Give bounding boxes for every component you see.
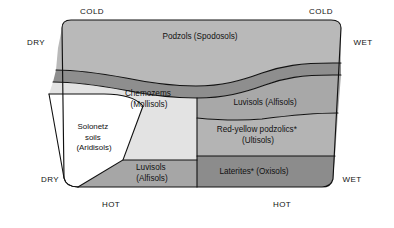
laterites-label: Laterites* (Oxisols) [219, 167, 288, 176]
axis-label-right-upper: WET [354, 38, 373, 47]
axis-label-bottom-right: HOT [273, 200, 291, 209]
axis-label-bottom-left: HOT [102, 200, 120, 209]
axis-label-top-left: COLD [80, 7, 104, 16]
axis-label-right-lower: WET [343, 175, 362, 184]
axis-label-left-upper: DRY [27, 38, 45, 47]
soil-diagram-svg: Podzols (Spodosols) Chemozems (Mollisols… [0, 0, 394, 228]
podzols-label: Podzols (Spodosols) [162, 32, 237, 41]
luvisols-lower-label: Luvisols (Alfisols) [136, 163, 168, 183]
luvisols-upper-label: Luvisols (Alfisols) [233, 98, 297, 107]
soil-classification-diagram: Podzols (Spodosols) Chemozems (Mollisols… [0, 0, 394, 228]
axis-label-top-right: COLD [309, 7, 333, 16]
chernozems-label: Chemozems (Mollisols) [125, 89, 173, 109]
axis-label-left-lower: DRY [41, 175, 59, 184]
